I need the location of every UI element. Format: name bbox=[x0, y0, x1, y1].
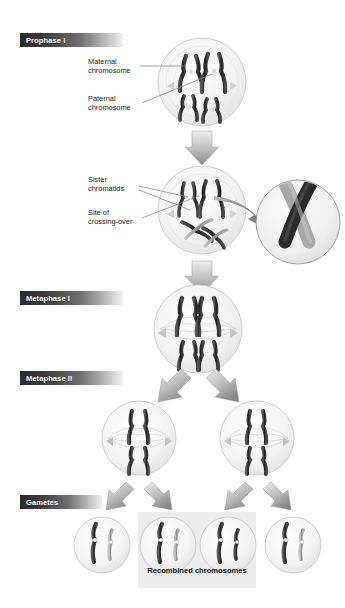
cell-metaphase-2-left bbox=[102, 401, 176, 475]
annotation-line-1: Maternal bbox=[88, 57, 131, 66]
stage-label-text: Gametes bbox=[26, 498, 58, 507]
stage-label-gametes: Gametes bbox=[20, 495, 102, 509]
stage-label-metaphase-1: Metaphase I bbox=[20, 291, 123, 305]
annotation-line-1: Paternal bbox=[88, 94, 131, 103]
annotation-sister-chromatids: Sister chromatids bbox=[88, 175, 124, 194]
stage-label-metaphase-2: Metaphase II bbox=[20, 371, 123, 385]
stage-label-prophase-1: Prophase I bbox=[20, 33, 123, 47]
gamete-3 bbox=[200, 517, 256, 573]
gamete-2 bbox=[140, 517, 196, 573]
cell-metaphase-2-right bbox=[220, 401, 294, 475]
arrow-prophase-to-crossover bbox=[185, 131, 219, 165]
recombined-chromosomes-caption: Recombined chromosomes bbox=[138, 566, 256, 575]
meiosis-diagram: Recombined chromosomes Prophase I Metaph… bbox=[0, 0, 345, 608]
crossing-over-magnifier-inset bbox=[256, 180, 340, 264]
annotation-line-2: chromosome bbox=[88, 66, 131, 75]
annotation-line-1: Sister bbox=[88, 175, 124, 184]
stage-label-text: Metaphase II bbox=[26, 374, 72, 383]
cell-prophase-1 bbox=[158, 38, 246, 126]
arrow-gamete-1 bbox=[106, 482, 134, 510]
arrow-metaphase1-to-right bbox=[206, 369, 239, 402]
stage-label-text: Prophase I bbox=[26, 36, 65, 45]
arrow-metaphase1-to-left bbox=[158, 369, 191, 402]
arrow-gamete-3 bbox=[225, 482, 253, 510]
annotation-paternal-chromosome: Paternal chromosome bbox=[88, 94, 131, 113]
annotation-maternal-chromosome: Maternal chromosome bbox=[88, 57, 131, 76]
annotation-site-of-crossing-over: Site of crossing-over bbox=[88, 208, 132, 227]
arrow-gamete-2 bbox=[144, 482, 172, 510]
annotation-line-1: Site of bbox=[88, 208, 132, 217]
annotation-line-2: chromosome bbox=[88, 103, 131, 112]
gamete-4 bbox=[265, 517, 321, 573]
arrow-gamete-4 bbox=[263, 482, 291, 510]
annotation-line-2: chromatids bbox=[88, 184, 124, 193]
gamete-1 bbox=[74, 517, 130, 573]
annotation-line-2: crossing-over bbox=[88, 217, 132, 226]
cell-crossing-over bbox=[158, 166, 263, 254]
cell-metaphase-1 bbox=[154, 285, 242, 373]
stage-label-text: Metaphase I bbox=[26, 294, 70, 303]
